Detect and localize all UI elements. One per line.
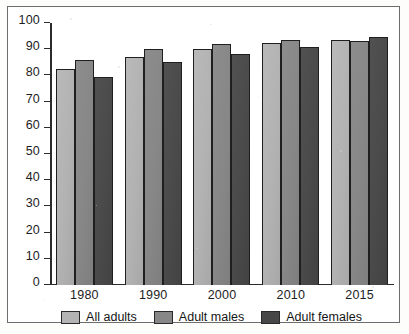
scan-speckle <box>96 205 97 206</box>
bar-group <box>325 23 394 285</box>
y-axis-tick-label: 40 <box>26 170 40 184</box>
bar <box>281 40 300 285</box>
bar <box>300 47 319 285</box>
bar <box>75 60 94 285</box>
y-axis-tick-label: 60 <box>26 118 40 132</box>
scan-speckle <box>118 66 120 68</box>
legend-label: Adult males <box>179 310 244 324</box>
bar-group <box>119 23 188 285</box>
bar-group <box>188 23 257 285</box>
scan-speckle <box>258 96 259 97</box>
x-axis-label: 2015 <box>325 288 394 302</box>
y-axis-tick-label: 70 <box>26 92 40 106</box>
x-axis-label: 1990 <box>119 288 188 302</box>
y-axis-tick-label: 30 <box>26 196 40 210</box>
chart-frame: 0102030405060708090100 19801990200020102… <box>7 6 400 323</box>
bar <box>231 54 250 285</box>
scan-speckle <box>340 150 342 152</box>
legend-swatch <box>261 311 280 324</box>
scan-speckle <box>70 18 72 20</box>
legend-item: Adult males <box>154 310 244 324</box>
bar <box>350 41 369 285</box>
bar <box>56 69 75 285</box>
y-axis-tick-label: 20 <box>26 223 40 237</box>
plot-area: 0102030405060708090100 <box>50 23 394 285</box>
legend-swatch <box>61 311 80 324</box>
bar <box>94 77 113 285</box>
bar <box>212 44 231 285</box>
x-axis-label: 2010 <box>256 288 325 302</box>
bar <box>369 37 388 285</box>
bar <box>193 49 212 285</box>
chart-figure: 0102030405060708090100 19801990200020102… <box>0 0 409 334</box>
bar <box>262 43 281 285</box>
bar <box>331 40 350 285</box>
legend-swatch <box>154 311 173 324</box>
x-axis-label: 1980 <box>50 288 119 302</box>
x-axis-label: 2000 <box>188 288 257 302</box>
legend-label: All adults <box>86 310 137 324</box>
y-axis-tick-label: 100 <box>19 13 40 27</box>
bar <box>125 57 144 285</box>
bar <box>163 62 182 285</box>
bar-group <box>256 23 325 285</box>
legend-item: All adults <box>61 310 137 324</box>
bar-groups <box>50 23 394 285</box>
x-axis-labels: 19801990200020102015 <box>50 288 394 302</box>
scan-speckle <box>372 286 374 288</box>
y-axis-tick-label: 0 <box>33 275 40 289</box>
chart-legend: All adultsAdult malesAdult females <box>15 310 408 324</box>
bar <box>144 49 163 285</box>
y-axis-tick-label: 50 <box>26 144 40 158</box>
legend-label: Adult females <box>286 310 362 324</box>
legend-item: Adult females <box>261 310 362 324</box>
scan-speckle <box>300 40 301 42</box>
scan-speckle <box>196 248 198 249</box>
scan-speckle <box>210 24 212 25</box>
y-axis-tick-label: 10 <box>26 249 40 263</box>
y-axis-tick-label: 90 <box>26 39 40 53</box>
y-axis-tick-label: 80 <box>26 65 40 79</box>
bar-group <box>50 23 119 285</box>
scan-speckle <box>44 300 45 301</box>
